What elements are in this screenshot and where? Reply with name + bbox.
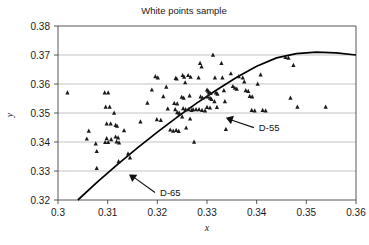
annotation-label: D-55 (259, 122, 280, 133)
chart-title: White points sample (141, 5, 227, 16)
x-axis-label: x (204, 222, 210, 233)
x-tick-label: 0.32 (148, 207, 168, 218)
y-tick-label: 0.38 (31, 21, 51, 32)
chart-figure: 0.320.330.340.350.360.370.380.30.310.320… (0, 0, 369, 245)
x-tick-label: 0.33 (197, 207, 217, 218)
y-tick-label: 0.35 (31, 108, 51, 119)
y-tick-label: 0.36 (31, 79, 51, 90)
scatter-plot: 0.320.330.340.350.360.370.380.30.310.320… (0, 0, 369, 245)
y-axis-label: y (4, 112, 15, 118)
y-tick-label: 0.37 (31, 50, 51, 61)
x-tick-label: 0.34 (247, 207, 267, 218)
x-tick-label: 0.35 (297, 207, 317, 218)
x-tick-label: 0.36 (346, 207, 366, 218)
x-tick-label: 0.31 (98, 207, 118, 218)
x-tick-label: 0.3 (51, 207, 65, 218)
annotation-label: D-65 (160, 187, 181, 198)
y-tick-label: 0.33 (31, 166, 51, 177)
y-tick-label: 0.34 (31, 137, 51, 148)
caption-fragment (0, 235, 369, 245)
y-tick-label: 0.32 (31, 195, 51, 206)
